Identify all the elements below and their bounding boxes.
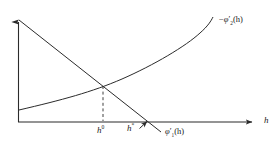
h-zero-label: h0 bbox=[97, 126, 104, 135]
phi2-argument: (h) bbox=[233, 14, 243, 24]
phi1-argument: (h) bbox=[174, 126, 184, 136]
minus-phi2-prime-curve-label: −φ′2(h) bbox=[219, 15, 243, 24]
h-star-label: h* bbox=[127, 124, 134, 133]
phi1-prime-curve-label: φ′1(h) bbox=[165, 127, 184, 136]
phi1-prime-line bbox=[19, 20, 161, 132]
h-zero-superscript: 0 bbox=[102, 124, 105, 130]
x-axis-label: h bbox=[264, 116, 269, 125]
marginal-cost-benefit-diagram: h h0 h* φ′1(h) −φ′2(h) bbox=[0, 0, 277, 146]
h-star-superscript: * bbox=[132, 122, 135, 128]
